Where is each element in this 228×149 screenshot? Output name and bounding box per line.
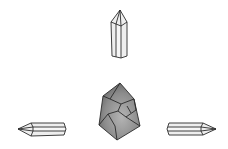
right-crystal [167, 123, 216, 135]
top-crystal [111, 10, 127, 58]
left-crystal [18, 123, 66, 136]
center-crystal [99, 83, 140, 140]
